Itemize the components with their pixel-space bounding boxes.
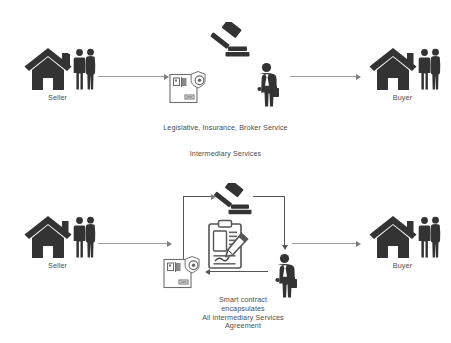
buyer-bottom-group: Buyer bbox=[367, 213, 442, 261]
buyer-top-group: Buyer bbox=[367, 45, 442, 93]
couple-icon bbox=[419, 217, 441, 258]
seller-top-label: Seller bbox=[30, 94, 85, 102]
couple-icon bbox=[74, 217, 96, 258]
intermediary-services-label: Intermediary Services bbox=[0, 150, 451, 158]
insurance-document-bottom-group bbox=[163, 252, 203, 290]
seller-bottom-group: Seller bbox=[22, 213, 97, 261]
smart-contract-caption: Smart contract encapsulates All intermed… bbox=[163, 296, 323, 331]
house-icon bbox=[22, 45, 97, 93]
clipboard-pen-icon bbox=[207, 219, 253, 271]
gavel-icon bbox=[207, 22, 253, 62]
diagram-canvas: Seller bbox=[0, 0, 451, 343]
insurance-document-icon bbox=[169, 67, 209, 105]
businessman-icon bbox=[270, 253, 300, 298]
smart-contract-caption-line-4: Agreement bbox=[163, 322, 323, 331]
broker-bottom-group bbox=[270, 253, 300, 298]
businessman-icon bbox=[252, 62, 282, 107]
gavel-icon bbox=[210, 183, 256, 219]
couple-icon bbox=[419, 49, 441, 90]
insurance-document-icon bbox=[163, 252, 203, 290]
shield-badge-icon bbox=[191, 72, 205, 88]
gavel-top-group bbox=[207, 22, 253, 62]
seller-bottom-label: Seller bbox=[30, 262, 85, 270]
shield-badge-icon bbox=[185, 257, 199, 273]
intermediary-services-detail-label: Legislative, Insurance, Broker Service bbox=[0, 124, 451, 132]
clipboard-bottom-group bbox=[207, 219, 253, 271]
buyer-top-label: Buyer bbox=[375, 94, 430, 102]
broker-top-group bbox=[252, 62, 282, 107]
house-icon bbox=[22, 213, 97, 261]
buyer-bottom-label: Buyer bbox=[375, 262, 430, 270]
insurance-document-top-group bbox=[169, 67, 209, 105]
seller-top-group: Seller bbox=[22, 45, 97, 93]
couple-icon bbox=[74, 49, 96, 90]
house-icon bbox=[367, 213, 442, 261]
house-icon bbox=[367, 45, 442, 93]
gavel-bottom-group bbox=[210, 183, 256, 219]
